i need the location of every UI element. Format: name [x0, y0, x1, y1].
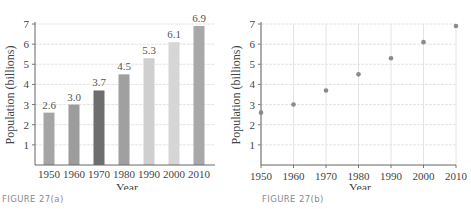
- data-point: [421, 40, 426, 45]
- data-point: [324, 88, 329, 93]
- x-tick-label: 1990: [380, 170, 403, 182]
- scatter-chart: 12345671950196019701980199020002010YearP…: [0, 0, 471, 190]
- y-axis-label: Population (billions): [229, 45, 243, 144]
- y-tick-label: 7: [250, 18, 256, 30]
- y-tick-label: 5: [250, 58, 256, 70]
- y-tick-label: 2: [250, 119, 256, 131]
- figure-caption-a: FIGURE 27(a): [2, 194, 64, 204]
- figure-caption-b: FIGURE 27(b): [262, 194, 324, 204]
- x-tick-label: 2000: [413, 170, 436, 182]
- y-tick-label: 1: [250, 139, 256, 151]
- data-point: [356, 72, 361, 77]
- x-tick-label: 1970: [315, 170, 338, 182]
- data-point: [454, 24, 459, 29]
- y-tick-label: 3: [250, 99, 256, 111]
- y-tick-label: 4: [250, 78, 256, 90]
- data-point: [259, 110, 264, 115]
- y-tick-label: 6: [250, 38, 256, 50]
- x-tick-label: 1950: [250, 170, 273, 182]
- x-axis-label: Year: [349, 181, 371, 190]
- x-tick-label: 1960: [283, 170, 306, 182]
- x-tick-label: 2010: [445, 170, 468, 182]
- data-point: [291, 102, 296, 107]
- data-point: [389, 56, 394, 61]
